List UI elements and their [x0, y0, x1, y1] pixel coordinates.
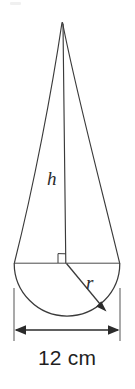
dimension-arrowhead-left	[15, 325, 27, 335]
radius-label: r	[86, 272, 94, 293]
right-angle-marker	[58, 254, 66, 263]
diameter-dimension-label: 12 cm	[38, 346, 96, 369]
dimension-arrowhead-right	[108, 325, 120, 335]
geometry-figure: h r 12 cm	[0, 0, 135, 389]
scan-artifact	[10, 2, 21, 5]
cone-left-side	[15, 23, 63, 263]
radius-line	[67, 264, 103, 308]
height-line	[63, 24, 66, 263]
height-label: h	[47, 168, 57, 189]
figure-canvas: h r 12 cm	[0, 0, 135, 389]
radius-arrowhead	[96, 301, 106, 311]
cone-right-side	[63, 23, 120, 263]
